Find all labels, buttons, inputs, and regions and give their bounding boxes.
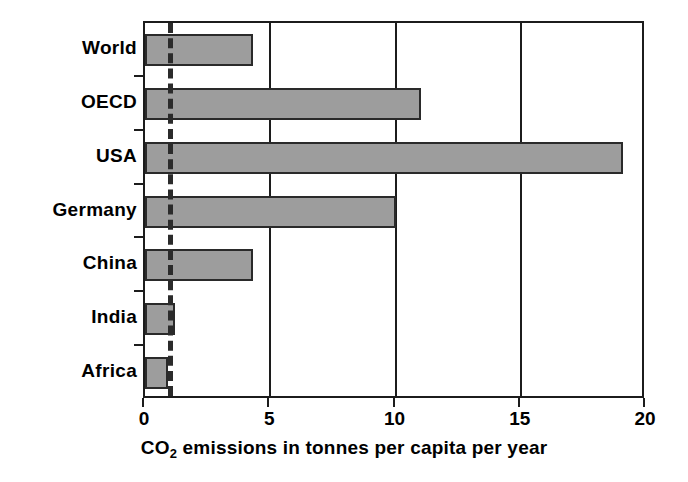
x-axis-title: CO2 emissions in tonnes per capita per y…	[0, 437, 688, 459]
y-axis-tick	[134, 236, 143, 238]
x-axis-tick	[518, 398, 520, 407]
bar-row-germany	[145, 196, 646, 228]
x-axis-tick	[393, 398, 395, 407]
bar-usa[interactable]	[145, 142, 623, 174]
x-axis-title-post: emissions in tonnes per capita per year	[177, 437, 547, 458]
bar-africa[interactable]	[145, 357, 168, 389]
x-axis: 05101520	[0, 398, 688, 438]
y-axis-tick-marks	[0, 21, 143, 398]
bar-row-world	[145, 34, 646, 66]
y-axis-tick	[134, 290, 143, 292]
x-axis-tick	[643, 398, 645, 407]
x-axis-title-pre: CO	[141, 437, 170, 458]
bar-world[interactable]	[145, 34, 253, 66]
plot-area	[143, 21, 644, 398]
bar-china[interactable]	[145, 249, 253, 281]
y-axis-tick	[134, 183, 143, 185]
x-axis-tick-label-5: 5	[239, 408, 299, 430]
x-axis-tick-label-10: 10	[365, 408, 425, 430]
bar-germany[interactable]	[145, 196, 396, 228]
y-axis-tick	[134, 344, 143, 346]
x-axis-tick	[267, 398, 269, 407]
x-axis-tick	[142, 398, 144, 407]
x-axis-tick-label-20: 20	[615, 408, 675, 430]
bar-row-china	[145, 249, 646, 281]
co2-emissions-bar-chart: World OECD USA Germany China India Afric…	[0, 0, 688, 482]
bar-row-usa	[145, 142, 646, 174]
sustainable-threshold-marker	[168, 23, 173, 396]
x-axis-title-subscript: 2	[170, 446, 177, 461]
bar-row-oecd	[145, 88, 646, 120]
bar-row-india	[145, 303, 646, 335]
y-axis-tick	[134, 129, 143, 131]
y-axis-tick	[134, 75, 143, 77]
x-axis-tick-label-15: 15	[490, 408, 550, 430]
x-axis-tick-label-0: 0	[114, 408, 174, 430]
bar-row-africa	[145, 357, 646, 389]
bar-oecd[interactable]	[145, 88, 421, 120]
